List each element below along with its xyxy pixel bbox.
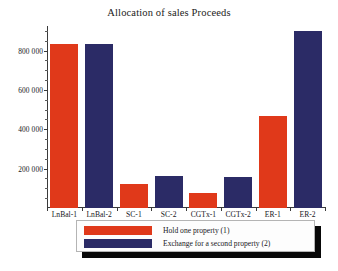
chart-container: Allocation of sales Proceeds 200 000400 … xyxy=(0,0,338,271)
bar-CGTx-1 xyxy=(189,193,217,208)
x-tick xyxy=(221,207,222,211)
bar-ER-1 xyxy=(259,116,287,208)
chart-title: Allocation of sales Proceeds xyxy=(0,7,338,18)
legend-swatch xyxy=(84,226,152,235)
legend-swatch xyxy=(84,239,152,248)
x-label-CGTx-2: CGTx-2 xyxy=(225,210,250,219)
bar-SC-2 xyxy=(155,176,183,208)
x-tick xyxy=(186,207,187,211)
x-tick xyxy=(82,207,83,211)
x-tick xyxy=(256,207,257,211)
legend-item: Exchange for a second property (2) xyxy=(81,237,310,249)
bar-SC-1 xyxy=(120,184,148,208)
bar-group xyxy=(47,26,325,208)
x-label-SC-2: SC-2 xyxy=(161,210,177,219)
legend-label: Hold one property (1) xyxy=(163,226,229,235)
legend-label: Exchange for a second property (2) xyxy=(163,239,270,248)
x-label-LnBal-2: LnBal-2 xyxy=(86,210,111,219)
x-label-ER-1: ER-1 xyxy=(265,210,281,219)
x-tick xyxy=(290,207,291,211)
bar-LnBal-2 xyxy=(85,44,113,208)
bar-CGTx-2 xyxy=(224,177,252,208)
x-label-SC-1: SC-1 xyxy=(126,210,142,219)
x-tick xyxy=(117,207,118,211)
x-tick xyxy=(47,207,48,211)
y-tick-label: 200 000 xyxy=(18,164,43,173)
x-label-CGTx-1: CGTx-1 xyxy=(191,210,216,219)
y-tick-label: 600 000 xyxy=(18,85,43,94)
x-tick xyxy=(325,207,326,211)
plot-area: 200 000400 000600 000800 000 LnBal-1LnBa… xyxy=(47,26,325,208)
x-label-LnBal-1: LnBal-1 xyxy=(52,210,77,219)
x-label-ER-2: ER-2 xyxy=(300,210,316,219)
legend-item: Hold one property (1) xyxy=(81,224,310,236)
bar-LnBal-1 xyxy=(50,44,78,208)
y-tick-label: 800 000 xyxy=(18,46,43,55)
bar-ER-2 xyxy=(294,31,322,208)
x-tick xyxy=(151,207,152,211)
y-tick-label: 400 000 xyxy=(18,125,43,134)
chart-legend: Hold one property (1)Exchange for a seco… xyxy=(76,220,315,252)
